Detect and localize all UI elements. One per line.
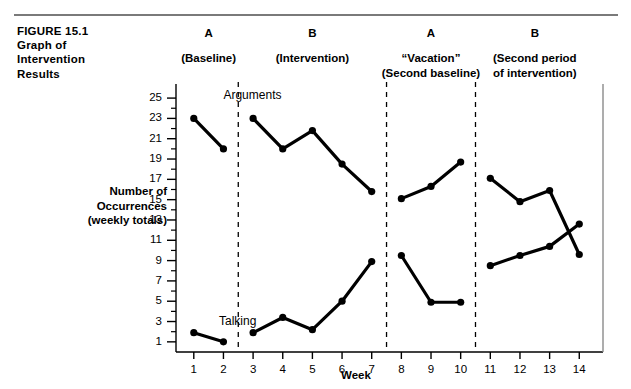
y-tick-label: 19 [122, 153, 162, 165]
series-label-talking: Talking [219, 314, 256, 328]
y-tick-label: 23 [122, 112, 162, 124]
data-point-arguments [487, 175, 494, 182]
x-tick-label: 8 [389, 363, 413, 375]
y-tick-label: 15 [122, 194, 162, 206]
data-point-arguments [338, 161, 345, 168]
y-tick-label: 7 [122, 275, 162, 287]
data-point-talking [279, 314, 286, 321]
y-tick-label: 3 [122, 316, 162, 328]
y-tick-label: 5 [122, 295, 162, 307]
data-point-arguments [398, 195, 405, 202]
data-point-talking [427, 299, 434, 306]
x-tick-label: 11 [478, 363, 502, 375]
data-point-talking [190, 329, 197, 336]
series-line-arguments [401, 162, 460, 199]
data-point-talking [368, 258, 375, 265]
series-line-arguments [490, 178, 579, 254]
x-tick-label: 14 [567, 363, 591, 375]
x-tick-label: 3 [241, 363, 265, 375]
data-point-arguments [427, 183, 434, 190]
y-tick-label: 21 [122, 133, 162, 145]
data-point-talking [546, 243, 553, 250]
figure-container: FIGURE 15.1 Graph of Intervention Result… [0, 0, 631, 389]
data-point-arguments [457, 158, 464, 165]
data-point-talking [309, 326, 316, 333]
x-tick-label: 7 [360, 363, 384, 375]
series-line-talking [490, 224, 579, 266]
x-tick-label: 5 [300, 363, 324, 375]
series-line-talking [253, 262, 372, 333]
data-point-talking [457, 299, 464, 306]
x-tick-label: 13 [538, 363, 562, 375]
series-line-talking [401, 256, 460, 303]
y-tick-label: 25 [122, 92, 162, 104]
data-point-talking [487, 262, 494, 269]
y-tick-label: 17 [122, 173, 162, 185]
x-tick-label: 2 [211, 363, 235, 375]
x-tick-label: 6 [330, 363, 354, 375]
data-point-talking [398, 252, 405, 259]
data-point-arguments [190, 115, 197, 122]
data-point-talking [338, 298, 345, 305]
data-point-talking [249, 329, 256, 336]
x-tick-label: 12 [508, 363, 532, 375]
y-tick-label: 1 [122, 336, 162, 348]
data-point-talking [516, 252, 523, 259]
data-point-arguments [368, 188, 375, 195]
y-tick-label: 9 [122, 255, 162, 267]
data-point-arguments [546, 187, 553, 194]
data-point-arguments [309, 127, 316, 134]
series-line-arguments [194, 118, 224, 148]
data-point-arguments [249, 115, 256, 122]
series-line-talking [194, 333, 224, 342]
series-label-arguments: Arguments [223, 88, 281, 102]
data-point-arguments [279, 145, 286, 152]
data-point-talking [576, 220, 583, 227]
x-tick-label: 4 [271, 363, 295, 375]
data-point-arguments [516, 198, 523, 205]
x-tick-label: 10 [449, 363, 473, 375]
y-tick-label: 11 [122, 234, 162, 246]
x-tick-label: 1 [182, 363, 206, 375]
data-point-arguments [576, 251, 583, 258]
data-point-arguments [220, 145, 227, 152]
y-tick-label: 13 [122, 214, 162, 226]
data-point-talking [220, 338, 227, 345]
x-tick-label: 9 [419, 363, 443, 375]
line-chart-plot [0, 0, 631, 389]
